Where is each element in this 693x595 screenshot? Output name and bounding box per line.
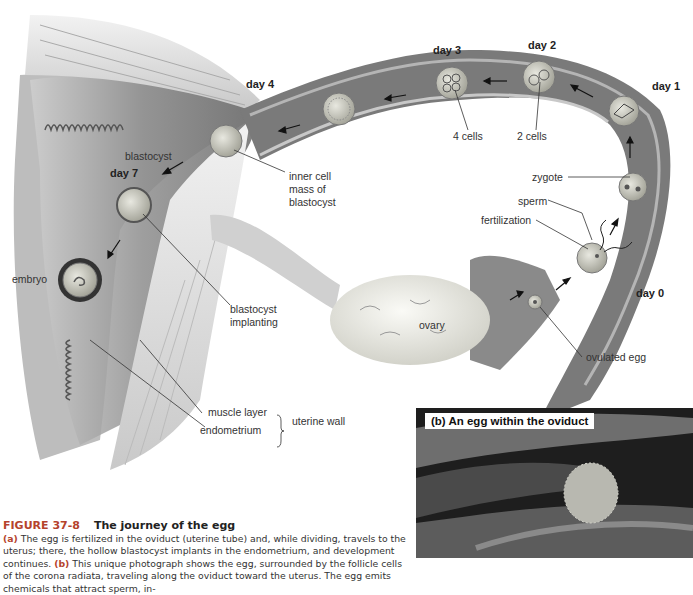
cell-day0-ovulated-egg (528, 295, 542, 309)
cell-blastocyst (210, 125, 242, 157)
label-ovary: ovary (419, 319, 445, 332)
label-fertilization: fertilization (481, 214, 531, 227)
label-sperm: sperm (518, 195, 547, 208)
cell-embryo (58, 258, 102, 302)
caption-title: FIGURE 37-8The journey of the egg (3, 519, 413, 532)
label-embryo: embryo (12, 273, 47, 286)
cell-day3-4-cells (436, 67, 468, 99)
label-blastocyst-implanting: blastocyst implanting (230, 303, 278, 329)
label-blastocyst: blastocyst (125, 150, 172, 163)
label-inner-cell-mass: inner cell mass of blastocyst (289, 170, 336, 209)
label-zygote: zygote (532, 171, 563, 184)
caption-part-b: (b) (54, 558, 69, 569)
figure-caption: FIGURE 37-8The journey of the egg (a) Th… (3, 519, 413, 595)
day-4-label: day 4 (246, 78, 274, 90)
cell-day1 (609, 96, 639, 126)
day-7-label: day 7 (110, 167, 138, 179)
photo-egg-in-oviduct: (b) An egg within the oviduct (416, 408, 693, 558)
cell-day4-morula (323, 93, 355, 125)
label-4-cells: 4 cells (453, 130, 483, 143)
day-1-label: day 1 (652, 80, 680, 92)
ovary-shape (330, 275, 490, 365)
caption-body: (a) The egg is fertilized in the oviduct… (3, 533, 413, 595)
day-3-label: day 3 (433, 44, 461, 56)
photo-label: (b) An egg within the oviduct (425, 413, 594, 429)
label-uterine-wall: uterine wall (292, 415, 345, 428)
day-0-label: day 0 (636, 287, 664, 299)
micrograph-image (416, 408, 693, 558)
label-2-cells: 2 cells (517, 130, 547, 143)
label-ovulated-egg: ovulated egg (586, 351, 646, 364)
day-2-label: day 2 (528, 39, 556, 51)
caption-part-a: (a) (3, 533, 18, 544)
cell-day2-2-cells (523, 61, 555, 93)
label-muscle-layer: muscle layer (208, 406, 267, 419)
label-endometrium: endometrium (200, 424, 261, 437)
figure-title: The journey of the egg (94, 519, 235, 532)
figure-number: FIGURE 37-8 (3, 519, 80, 532)
